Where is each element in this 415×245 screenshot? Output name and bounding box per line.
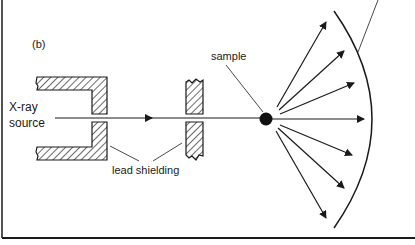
source-shield-lower [36, 122, 107, 160]
aperture-shield-lower [186, 122, 203, 160]
scattered-rays [276, 22, 354, 218]
shielding-leader-right [153, 143, 182, 161]
detector-leader-line [358, 0, 378, 52]
sample-dot [260, 113, 273, 126]
source-label-line2: source [9, 117, 45, 130]
sample-label: sample [211, 50, 246, 63]
source-shield-upper [36, 77, 107, 114]
aperture-shield-upper [186, 79, 203, 114]
source-label-line1: X-ray [9, 101, 38, 114]
panel-label: (b) [32, 38, 45, 51]
sample-leader-line [226, 65, 263, 112]
shielding-leader-left [110, 146, 139, 161]
shielding-label: lead shielding [112, 164, 179, 177]
xray-diffraction-diagram [0, 0, 415, 245]
